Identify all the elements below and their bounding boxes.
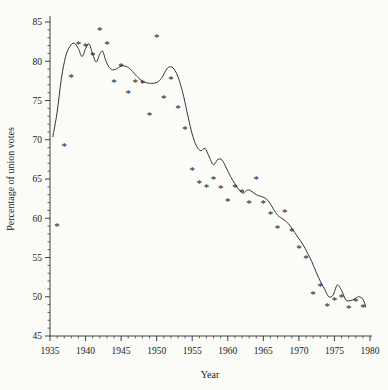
data-point-marker: * [268,208,274,220]
data-point-marker: * [225,195,231,207]
y-tick-label: 45 [33,331,43,341]
y-tick-label: 85 [33,17,43,27]
data-point-marker: * [54,220,60,232]
data-point-marker: * [118,60,124,72]
data-point-marker: * [289,225,295,237]
data-point-marker: * [197,177,203,189]
x-tick-label: 1940 [76,346,95,356]
data-point-marker: * [147,109,153,121]
x-tick-label: 1950 [147,346,166,356]
data-point-marker: * [339,291,345,303]
data-point-marker: * [232,181,238,193]
data-point-marker: * [182,123,188,135]
x-tick-label: 1980 [361,346,380,356]
data-point-marker: * [111,76,117,88]
data-point-marker: * [211,173,217,185]
data-point-marker: * [218,182,224,194]
data-point-marker: * [253,173,259,185]
data-point-marker: * [161,92,167,104]
data-point-marker: * [282,206,288,218]
y-tick-label: 80 [33,57,43,67]
data-point-marker: * [303,252,309,264]
y-tick-label: 75 [33,96,43,106]
data-point-marker: * [175,102,181,114]
data-point-markers: ****************************************… [54,24,365,314]
data-point-marker: * [69,71,75,83]
chart-figure: 455055606570758085 193519401945195019551… [0,0,388,390]
data-point-marker: * [90,49,96,61]
data-point-marker: * [83,40,89,52]
y-axis-title: Percentage of union votes [5,127,16,231]
data-point-marker: * [189,164,195,176]
y-tick-label: 55 [33,253,43,263]
x-tick-label: 1970 [289,346,308,356]
data-point-marker: * [332,294,338,306]
data-point-marker: * [353,295,359,307]
x-axis: 1935194019451950195519601965197019751980 [41,336,380,356]
data-point-marker: * [296,242,302,254]
data-point-marker: * [61,140,67,152]
smoothed-trend-line [53,43,366,307]
x-tick-label: 1975 [325,346,344,356]
trend-curve [53,43,366,307]
x-tick-label: 1945 [112,346,131,356]
data-point-marker: * [325,300,331,312]
data-point-marker: * [239,186,245,198]
data-point-marker: * [140,77,146,89]
data-point-marker: * [97,24,103,36]
x-tick-label: 1935 [41,346,60,356]
y-tick-label: 60 [33,214,43,224]
data-point-marker: * [275,222,281,234]
data-point-marker: * [104,38,110,50]
data-point-marker: * [133,76,139,88]
data-point-marker: * [317,280,323,292]
data-point-marker: * [246,197,252,209]
x-tick-label: 1955 [183,346,202,356]
data-point-marker: * [125,87,131,99]
y-axis: 455055606570758085 [33,16,51,341]
y-tick-label: 65 [33,174,43,184]
x-tick-label: 1965 [254,346,273,356]
data-point-marker: * [204,181,210,193]
data-point-marker: * [154,31,160,43]
union-votes-scatter-chart: 455055606570758085 193519401945195019551… [0,0,388,390]
data-point-marker: * [346,302,352,314]
y-tick-label: 50 [33,292,43,302]
x-axis-title: Year [201,369,220,380]
data-point-marker: * [310,288,316,300]
y-tick-label: 70 [33,135,43,145]
data-point-marker: * [261,197,267,209]
data-point-marker: * [168,73,174,85]
x-tick-label: 1960 [218,346,237,356]
data-point-marker: * [360,301,366,313]
data-point-marker: * [76,38,82,50]
